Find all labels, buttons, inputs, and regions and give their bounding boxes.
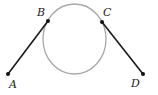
segment-ab	[8, 21, 48, 74]
segment-cd	[102, 22, 143, 74]
label-c: C	[103, 6, 112, 19]
point-c	[100, 20, 104, 24]
label-b: B	[36, 6, 45, 19]
circle	[43, 4, 106, 74]
label-d: D	[130, 77, 140, 90]
point-b	[46, 19, 50, 23]
label-a: A	[8, 78, 17, 91]
geometry-diagram: A B C D	[0, 0, 158, 95]
point-d	[141, 72, 145, 76]
point-a	[6, 72, 10, 76]
